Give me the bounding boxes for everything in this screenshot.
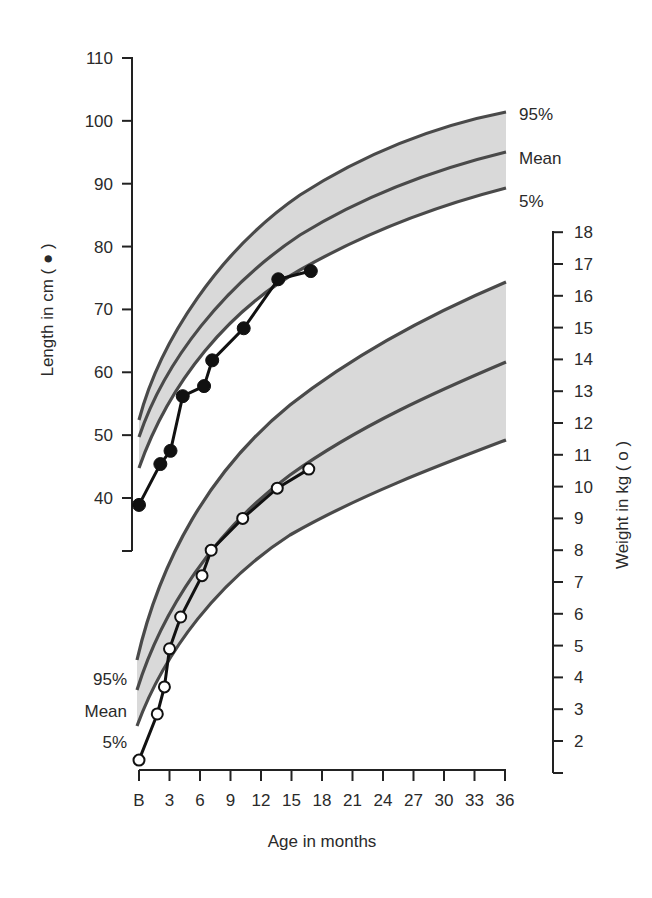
weight-mean-label: Mean: [84, 702, 127, 721]
x-tick-label: B: [133, 791, 144, 810]
left-y-axis: 110100908070605040: [85, 49, 132, 551]
length-data-point: [272, 273, 285, 286]
right-tick-label: 6: [574, 605, 583, 624]
x-tick-label: 27: [404, 791, 423, 810]
right-tick-label: 17: [574, 255, 593, 274]
left-tick-label: 90: [94, 175, 113, 194]
length-data-point: [154, 458, 167, 471]
left-tick-label: 50: [94, 426, 113, 445]
length-95-label: 95%: [519, 105, 553, 124]
weight-data-point: [197, 570, 208, 581]
weight-data-point: [134, 755, 145, 766]
right-tick-label: 4: [574, 668, 583, 687]
right-tick-label: 2: [574, 732, 583, 751]
x-tick-label: 6: [195, 791, 204, 810]
right-tick-label: 12: [574, 414, 593, 433]
length-mean-label: Mean: [519, 149, 562, 168]
x-tick-label: 24: [374, 791, 393, 810]
length-data-point: [304, 265, 317, 278]
weight-data-point: [159, 681, 170, 692]
right-tick-label: 5: [574, 637, 583, 656]
right-tick-label: 13: [574, 382, 593, 401]
x-tick-label: 21: [343, 791, 362, 810]
x-tick-label: 3: [165, 791, 174, 810]
right-tick-label: 18: [574, 223, 593, 242]
x-tick-label: 33: [465, 791, 484, 810]
length-data-point: [237, 322, 250, 335]
weight-5-label: 5%: [102, 733, 127, 752]
left-tick-label: 80: [94, 238, 113, 257]
x-tick-label: 15: [282, 791, 301, 810]
left-tick-label: 100: [85, 112, 113, 131]
right-tick-label: 7: [574, 573, 583, 592]
length-5-label: 5%: [519, 192, 544, 211]
weight-data-point: [237, 513, 248, 524]
weight-data-point: [152, 708, 163, 719]
x-tick-label: 36: [496, 791, 515, 810]
weight-data-point: [272, 483, 283, 494]
right-tick-label: 11: [574, 446, 592, 465]
length-data-point: [133, 498, 146, 511]
x-tick-label: 12: [252, 791, 271, 810]
left-tick-label: 70: [94, 300, 113, 319]
right-tick-label: 9: [574, 509, 583, 528]
length-data-point: [176, 390, 189, 403]
length-data-point: [164, 444, 177, 457]
right-tick-label: 10: [574, 478, 593, 497]
right-tick-label: 16: [574, 287, 593, 306]
length-data-point: [206, 354, 219, 367]
right-y-axis: 18171615141312111098765432: [553, 223, 593, 773]
weight-data-point: [206, 545, 217, 556]
x-tick-label: 18: [313, 791, 332, 810]
right-axis-title: Weight in kg ( o ): [613, 441, 632, 569]
weight-data-point: [164, 643, 175, 654]
left-tick-label: 60: [94, 363, 113, 382]
x-tick-label: 30: [435, 791, 454, 810]
length-data-point: [198, 380, 211, 393]
right-tick-label: 14: [574, 350, 593, 369]
left-tick-label: 110: [86, 49, 113, 68]
x-axis: B369121518212427303336: [133, 770, 514, 810]
x-tick-label: 9: [226, 791, 235, 810]
growth-chart: 110100908070605040 181716151413121110987…: [0, 0, 652, 898]
weight-data-point: [175, 611, 186, 622]
left-axis-title: Length in cm ( ● ): [38, 243, 57, 376]
left-tick-label: 40: [94, 489, 113, 508]
right-tick-label: 3: [574, 700, 583, 719]
x-axis-title: Age in months: [268, 832, 377, 851]
right-tick-label: 15: [574, 319, 593, 338]
right-tick-label: 8: [574, 541, 583, 560]
weight-data-point: [303, 464, 314, 475]
weight-95-label: 95%: [93, 670, 127, 689]
